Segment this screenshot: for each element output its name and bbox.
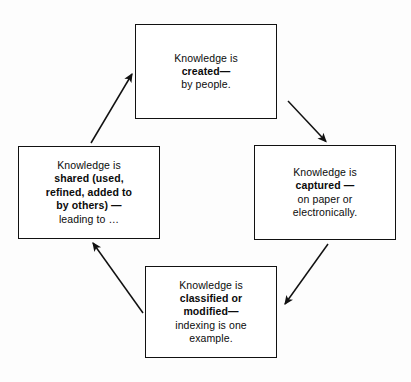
node-created-line-3: by people.: [181, 78, 230, 91]
node-captured-line-3: on paper or: [298, 193, 353, 206]
arrow-created-to-captured: [288, 101, 326, 142]
arrow-captured-to-classified: [285, 244, 328, 304]
node-shared-line-5: leading to …: [59, 213, 119, 227]
node-captured-line-2: captured —: [296, 179, 355, 192]
node-knowledge-classified: Knowledge is classified or modified— ind…: [145, 266, 277, 358]
node-classified-line-2: classified or: [180, 292, 243, 305]
node-classified-line-1: Knowledge is: [179, 279, 243, 292]
knowledge-cycle-diagram: Knowledge is created— by people. Knowled…: [0, 0, 411, 382]
node-shared-line-1: Knowledge is: [57, 159, 121, 173]
node-shared-line-2: shared (used,: [54, 172, 124, 186]
node-classified-line-4: indexing is one: [175, 319, 247, 332]
node-created-line-1: Knowledge is: [174, 52, 238, 65]
node-created-line-2: created—: [182, 65, 231, 78]
node-knowledge-captured: Knowledge is captured — on paper or elec…: [254, 145, 396, 240]
node-captured-line-4: electronically.: [293, 206, 357, 219]
node-classified-line-5: example.: [189, 332, 232, 345]
arrow-shared-to-created: [91, 74, 132, 143]
node-classified-line-3: modified—: [183, 305, 238, 318]
arrow-classified-to-shared: [93, 243, 143, 313]
node-captured-line-1: Knowledge is: [293, 166, 357, 179]
node-shared-line-4: by others) —: [56, 199, 121, 213]
node-knowledge-created: Knowledge is created— by people.: [135, 24, 277, 119]
node-shared-line-3: refined, added to: [46, 186, 132, 200]
node-knowledge-shared: Knowledge is shared (used, refined, adde…: [18, 146, 160, 239]
